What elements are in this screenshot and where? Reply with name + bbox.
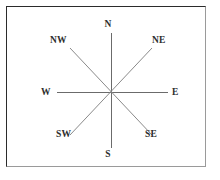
- direction-label-east: E: [172, 88, 179, 98]
- direction-label-southwest: SW: [56, 130, 71, 140]
- direction-label-southeast: SE: [145, 130, 157, 140]
- direction-label-northwest: NW: [50, 36, 67, 46]
- direction-label-northeast: NE: [152, 36, 166, 46]
- direction-label-south: S: [105, 150, 110, 160]
- compass-rose-diagram: N NE E SE S SW W NW: [0, 0, 220, 180]
- direction-label-west: W: [41, 88, 51, 98]
- direction-label-north: N: [104, 20, 111, 30]
